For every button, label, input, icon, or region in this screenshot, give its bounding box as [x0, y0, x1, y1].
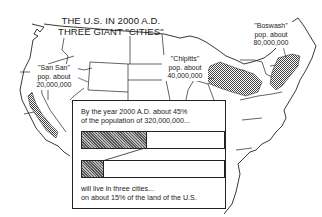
city-label-sansan: "San San" pop. about 20,000,000	[30, 64, 78, 90]
city-name: "San San"	[30, 64, 78, 73]
city-pop: 80,000,000	[247, 39, 295, 48]
chipitts-shade	[206, 62, 262, 96]
population-bar	[81, 131, 225, 149]
land-share-fill	[82, 161, 104, 177]
map-title: THE U.S. IN 2000 A.D. THREE GIANT "CITIE…	[58, 16, 164, 37]
city-label-boswash: "Boswash" pop. about 80,000,000	[247, 22, 295, 48]
city-pop-label: pop. about	[30, 73, 78, 82]
inset-bottom-line-1: will live in three cities...	[81, 184, 197, 193]
title-line-2: THREE GIANT "CITIES"	[58, 27, 164, 38]
population-share-fill	[82, 132, 147, 148]
inset-bottom-text: will live in three cities... on about 15…	[81, 184, 197, 202]
city-pop: 20,000,000	[30, 81, 78, 90]
land-bar	[81, 160, 225, 178]
inset-top-line-2: of the population of 320,000,000...	[81, 116, 190, 125]
city-name: "Chipitts"	[162, 55, 208, 64]
inset-bottom-line-2: on about 15% of the land of the U.S.	[81, 193, 197, 202]
city-label-chipitts: "Chipitts" pop. about 40,000,000	[162, 55, 208, 81]
boswash-shade	[270, 54, 300, 90]
inset-panel: By the year 2000 A.D. about 45% of the p…	[72, 100, 226, 209]
city-pop: 40,000,000	[162, 72, 208, 81]
inset-top-line-1: By the year 2000 A.D. about 45%	[81, 107, 190, 116]
city-name: "Boswash"	[247, 22, 295, 31]
title-line-1: THE U.S. IN 2000 A.D.	[58, 16, 164, 27]
inset-top-text: By the year 2000 A.D. about 45% of the p…	[81, 107, 190, 125]
city-pop-label: pop. about	[162, 64, 208, 73]
city-pop-label: pop. about	[247, 31, 295, 40]
